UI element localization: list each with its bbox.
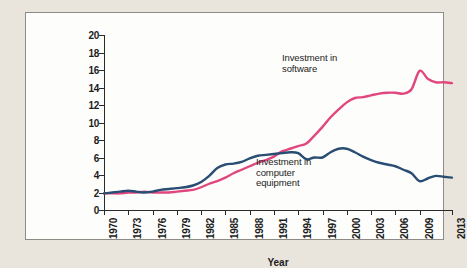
x-tick-mark xyxy=(347,210,348,215)
x-tick-mark xyxy=(323,210,324,215)
x-tick-label: 1976 xyxy=(157,218,168,239)
x-tick-mark xyxy=(298,210,299,215)
x-tick-label: 1979 xyxy=(181,218,192,239)
x-tick-label: 1988 xyxy=(254,218,265,239)
x-tick-label: 1982 xyxy=(205,218,216,239)
x-tick-label: 1994 xyxy=(302,218,313,239)
x-tick-mark xyxy=(452,210,453,215)
chart-panel: Share of private nonresidential investme… xyxy=(25,12,444,240)
x-tick-mark xyxy=(153,210,154,215)
x-tick-label: 1985 xyxy=(229,218,240,239)
x-axis-line xyxy=(104,210,452,211)
x-tick-mark xyxy=(177,210,178,215)
x-tick-mark xyxy=(128,210,129,215)
x-tick-label: 2009 xyxy=(424,218,435,239)
x-tick-mark xyxy=(104,210,105,215)
x-axis-title: Year xyxy=(104,257,452,268)
x-tick-label: 1991 xyxy=(278,218,289,239)
plot-area: 02468101214161820 1970197319761979198219… xyxy=(104,35,452,210)
x-tick-label: 2000 xyxy=(351,218,362,239)
x-tick-label: 1997 xyxy=(327,218,338,239)
x-tick-mark xyxy=(201,210,202,215)
x-tick-label: 2013 xyxy=(456,218,467,239)
y-axis-title: Share of private nonresidential investme… xyxy=(0,0,4,49)
x-tick-mark xyxy=(274,210,275,215)
x-tick-label: 1973 xyxy=(132,218,143,239)
x-tick-mark xyxy=(420,210,421,215)
x-tick-mark xyxy=(225,210,226,215)
x-tick-label: 2003 xyxy=(375,218,386,239)
x-tick-label: 2006 xyxy=(399,218,410,239)
annotation-software: Investment in software xyxy=(282,53,337,74)
annotation-computer-equipment: Investment in computer equipment xyxy=(256,157,311,189)
x-tick-mark xyxy=(250,210,251,215)
x-tick-label: 1970 xyxy=(108,218,119,239)
x-tick-mark xyxy=(371,210,372,215)
x-tick-mark xyxy=(395,210,396,215)
